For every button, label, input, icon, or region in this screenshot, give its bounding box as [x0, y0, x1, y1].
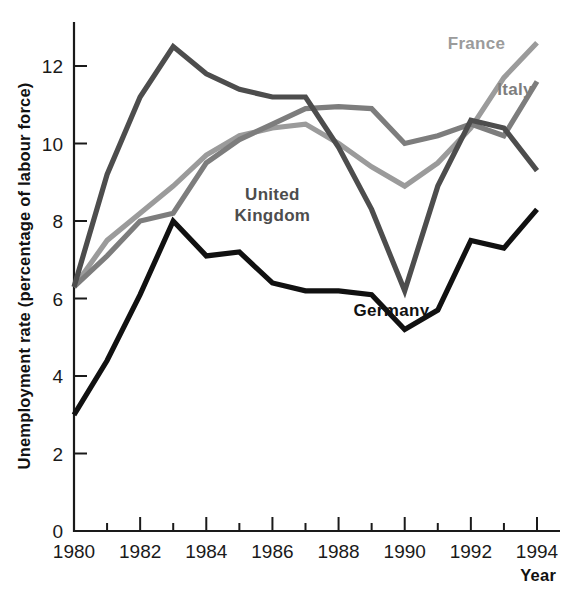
series-line-italy [74, 82, 537, 287]
series-label-italy: Italy [497, 80, 533, 99]
y-tick-label-6: 6 [52, 289, 63, 310]
series-label-france: France [448, 34, 506, 53]
series-line-germany [74, 209, 537, 414]
series-line-united-kingdom [74, 47, 537, 291]
unemployment-rate-line-chart: 024681012 198019821984198619881990199219… [0, 0, 575, 615]
y-tick-label-10: 10 [42, 134, 63, 155]
x-tick-label-1994: 1994 [516, 541, 559, 562]
data-series-group [74, 43, 537, 415]
series-label-united-kingdom: UnitedKingdom [235, 185, 311, 225]
y-tick-label-0: 0 [52, 521, 63, 542]
x-tick-label-1984: 1984 [185, 541, 228, 562]
x-tick-label-1980: 1980 [53, 541, 95, 562]
y-tick-label-2: 2 [52, 444, 63, 465]
chart-canvas: 024681012 198019821984198619881990199219… [0, 0, 575, 615]
x-tick-label-1992: 1992 [450, 541, 492, 562]
x-tick-label-1990: 1990 [384, 541, 426, 562]
x-tick-label-1988: 1988 [317, 541, 359, 562]
y-tick-label-12: 12 [42, 56, 63, 77]
y-tick-label-8: 8 [52, 211, 63, 232]
x-tick-label-1986: 1986 [251, 541, 293, 562]
x-axis-tick-labels: 19801982198419861988199019921994 [53, 541, 559, 562]
y-axis-tick-labels: 024681012 [42, 56, 64, 542]
x-tick-label-1982: 1982 [119, 541, 161, 562]
y-axis-ticks [74, 66, 87, 531]
x-axis-title: Year [520, 566, 556, 584]
series-label-germany: Germany [354, 301, 430, 320]
y-tick-label-4: 4 [52, 366, 63, 387]
x-axis-ticks [74, 517, 537, 531]
y-axis-title: Unemployment rate (percentage of labour … [15, 83, 33, 470]
